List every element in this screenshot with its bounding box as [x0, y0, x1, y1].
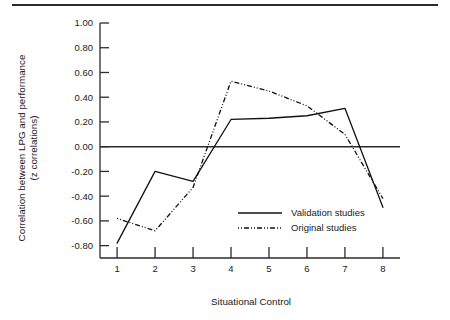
- y-tick-label: -0.20: [71, 166, 93, 177]
- x-tick-label: 7: [342, 263, 347, 274]
- x-tick-label: 5: [266, 263, 271, 274]
- y-tick-label: 0.80: [75, 42, 94, 53]
- y-tick-label: 0.60: [75, 67, 94, 78]
- chart-legend: Validation studiesOriginal studies: [238, 207, 365, 233]
- x-axis-tick-labels: 12345678: [114, 263, 385, 274]
- x-tick-label: 3: [190, 263, 195, 274]
- line-chart-svg: 1.000.800.600.400.200.00-0.20-0.40-0.60-…: [0, 0, 450, 320]
- y-axis-tick-labels: 1.000.800.600.400.200.00-0.20-0.40-0.60-…: [71, 17, 93, 251]
- x-tick-label: 2: [152, 263, 157, 274]
- y-axis-ticks: [100, 23, 109, 246]
- figure-container: 1.000.800.600.400.200.00-0.20-0.40-0.60-…: [0, 0, 450, 320]
- x-tick-label: 8: [380, 263, 385, 274]
- legend-label: Original studies: [291, 222, 357, 233]
- chart-plot-area: 1.000.800.600.400.200.00-0.20-0.40-0.60-…: [0, 0, 450, 320]
- x-tick-label: 4: [228, 263, 233, 274]
- y-tick-label: 0.20: [75, 116, 94, 127]
- y-axis-title-line1: Correlation between LPG and performance: [16, 54, 27, 241]
- y-axis-title-line2: (z correlations): [28, 116, 39, 181]
- y-tick-label: -0.60: [71, 215, 93, 226]
- y-tick-label: 0.00: [75, 141, 94, 152]
- y-tick-label: 0.40: [75, 92, 94, 103]
- x-axis-title: Situational Control: [211, 296, 291, 307]
- x-tick-label: 6: [304, 263, 309, 274]
- y-tick-label: -0.40: [71, 191, 93, 202]
- y-tick-label: -0.80: [71, 240, 93, 251]
- x-axis-ticks: [117, 247, 383, 258]
- y-tick-label: 1.00: [75, 17, 94, 28]
- legend-label: Validation studies: [291, 207, 365, 218]
- x-tick-label: 1: [114, 263, 119, 274]
